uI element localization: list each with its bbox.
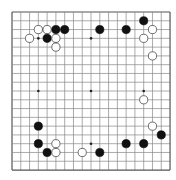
white-stone (25, 34, 33, 42)
white-stone (148, 25, 156, 33)
white-stone (52, 43, 60, 51)
stones-layer (25, 17, 165, 157)
star-point-icon (37, 90, 40, 93)
black-stone (140, 140, 148, 148)
black-stone (96, 25, 104, 33)
black-stone (96, 148, 104, 156)
star-point-icon (90, 90, 93, 93)
white-stone (148, 122, 156, 130)
star-point-icon (37, 37, 40, 40)
black-stone (122, 25, 130, 33)
black-stone (122, 140, 130, 148)
black-stone (61, 25, 69, 33)
white-stone (43, 25, 51, 33)
white-stone (52, 34, 60, 42)
star-point-icon (142, 90, 145, 93)
black-stone (52, 25, 60, 33)
white-stone (78, 148, 86, 156)
black-stone (43, 148, 51, 156)
white-stone (140, 34, 148, 42)
black-stone (43, 34, 51, 42)
star-point-icon (90, 37, 93, 40)
white-stone (34, 25, 42, 33)
star-point-icon (90, 142, 93, 145)
black-stone (157, 131, 165, 139)
white-stone (140, 96, 148, 104)
white-stone (52, 148, 60, 156)
black-stone (34, 140, 42, 148)
white-stone (148, 52, 156, 60)
go-board[interactable] (0, 0, 176, 180)
white-stone (52, 140, 60, 148)
black-stone (140, 17, 148, 25)
black-stone (34, 122, 42, 130)
